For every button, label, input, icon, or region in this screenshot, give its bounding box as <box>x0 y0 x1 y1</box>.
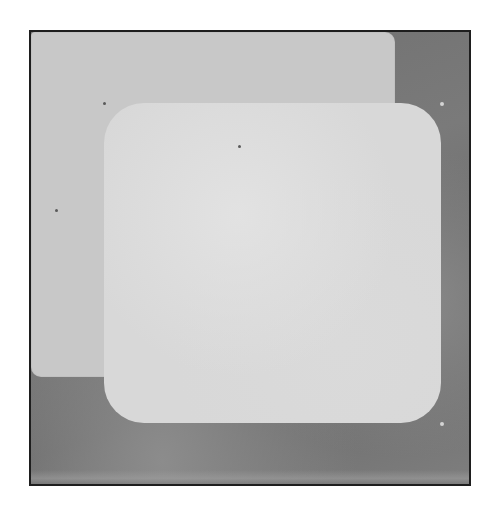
speck-dot <box>440 422 444 426</box>
speck-dot <box>238 145 241 148</box>
speck-dot <box>440 102 444 106</box>
speck-dot <box>103 102 106 105</box>
speck-dot <box>55 209 58 212</box>
front-panel <box>104 103 441 423</box>
image-frame <box>29 30 471 486</box>
